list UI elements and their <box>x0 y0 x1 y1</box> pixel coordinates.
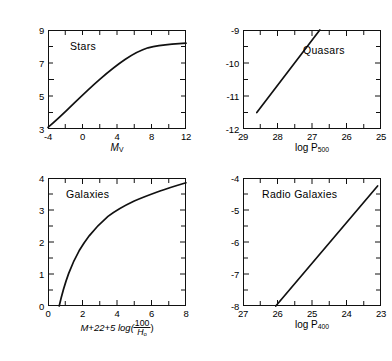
xaxis-title-sub: 500 <box>318 146 329 153</box>
xaxis-title-main: log P <box>295 319 318 330</box>
xtick-label: 4 <box>114 308 119 319</box>
ytick-label: -6 <box>218 237 239 248</box>
xaxis-title-quasars: log P500 <box>295 142 329 153</box>
ytick-label: -11 <box>218 91 239 102</box>
xtick-label: -4 <box>44 131 52 142</box>
xaxis-title-radio-galaxies: log P400 <box>295 319 329 330</box>
ytick-label: -5 <box>218 205 239 216</box>
ytick-label: 1 <box>30 269 44 280</box>
data-line-radio-galaxies <box>276 186 378 306</box>
fraction-100-over-H0: 100Ho <box>134 319 151 338</box>
xaxis-title-close: ) <box>150 322 153 333</box>
ytick-label: 2 <box>30 237 44 248</box>
ytick-label: 5 <box>30 91 44 102</box>
xtick-label: 6 <box>149 308 154 319</box>
xtick-label: 8 <box>149 131 154 142</box>
data-curve-galaxies <box>59 183 186 306</box>
xtick-label: 29 <box>238 131 248 142</box>
panel-annotation-radio-galaxies: Radio Galaxies <box>262 188 337 200</box>
xtick-label: 28 <box>272 131 282 142</box>
xtick-label: 12 <box>181 131 191 142</box>
xaxis-title-main: M+22+5 log( <box>80 322 133 333</box>
xtick-label: 24 <box>341 308 351 319</box>
data-line-quasars <box>257 30 320 113</box>
ytick-label: -12 <box>218 124 239 135</box>
xaxis-title-galaxies: M+22+5 log(100Ho) <box>80 319 153 338</box>
ytick-label: -7 <box>218 269 239 280</box>
fraction-denominator: Ho <box>134 328 151 337</box>
data-curve-stars <box>48 43 186 127</box>
ytick-label: 9 <box>30 25 44 36</box>
xtick-label: 2 <box>80 308 85 319</box>
xaxis-title-sub: 400 <box>318 323 329 330</box>
xtick-label: 27 <box>238 308 248 319</box>
ytick-label: -10 <box>218 58 239 69</box>
xtick-label: 26 <box>272 308 282 319</box>
panel-annotation-quasars: Quasars <box>303 44 345 56</box>
ytick-label: 3 <box>30 205 44 216</box>
ytick-label: 4 <box>30 173 44 184</box>
xaxis-title-sub: V <box>119 146 124 153</box>
xtick-label: 0 <box>45 308 50 319</box>
xtick-label: 23 <box>376 308 386 319</box>
ytick-label: 3 <box>30 124 44 135</box>
panel-annotation-stars: Stars <box>70 40 96 52</box>
ytick-label: 7 <box>30 58 44 69</box>
xtick-label: 25 <box>307 308 317 319</box>
four-panel-figure: Stars -4 0 4 8 12 3 5 7 9 MV log ΦS(MV)+… <box>0 0 392 361</box>
ytick-label: -4 <box>218 173 239 184</box>
panel-annotation-galaxies: Galaxies <box>66 188 109 200</box>
ytick-label: -8 <box>218 301 239 312</box>
xaxis-title-stars: MV <box>111 142 124 153</box>
ytick-label: -9 <box>218 25 239 36</box>
ytick-label: 0 <box>30 301 44 312</box>
plot-area-stars <box>48 30 186 129</box>
xtick-label: 4 <box>114 131 119 142</box>
panel-radio-galaxies: Radio Galaxies 27 26 25 24 23 -4 -5 -6 -… <box>0 0 103 16</box>
xtick-label: 0 <box>80 131 85 142</box>
xaxis-title-main: log P <box>295 142 318 153</box>
xtick-label: 27 <box>307 131 317 142</box>
H-subscript: o <box>144 332 147 338</box>
xtick-label: 26 <box>341 131 351 142</box>
xtick-label: 25 <box>376 131 386 142</box>
xtick-label: 8 <box>183 308 188 319</box>
